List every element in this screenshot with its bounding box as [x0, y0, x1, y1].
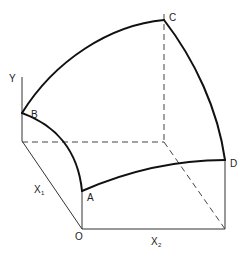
curve-b-to-c	[22, 20, 164, 113]
x2-axis-label: X	[151, 236, 158, 247]
y-axis-label: Y	[9, 73, 16, 84]
hidden-diagonal-edge	[164, 142, 225, 229]
origin-label: O	[75, 231, 83, 242]
point-d-label: D	[230, 158, 237, 169]
3d-surface-diagram: Y B C D A O X 1 X 2	[0, 0, 247, 260]
x1-axis-label: X	[34, 184, 41, 195]
point-c-label: C	[169, 12, 176, 23]
curve-b-to-a	[22, 113, 82, 191]
point-a-label: A	[87, 192, 94, 203]
curve-a-to-d	[82, 160, 225, 191]
x1-axis-subscript: 1	[41, 190, 45, 196]
point-b-label: B	[31, 109, 38, 120]
x2-axis-subscript: 2	[158, 242, 162, 248]
curve-c-to-d	[164, 20, 225, 160]
x1-axis-line	[22, 141, 82, 229]
